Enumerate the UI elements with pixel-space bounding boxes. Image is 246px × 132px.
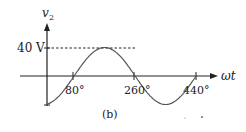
y-axis-label: v <box>42 6 49 20</box>
tick-label-260: 260° <box>124 84 151 97</box>
waveform-diagram: v 2 40 V ωt 80° 260° 440° (b) <box>0 0 246 132</box>
x-axis-label: ωt <box>221 69 236 83</box>
tick-label-440: 440° <box>183 84 210 97</box>
speck <box>184 117 185 118</box>
x-axis-arrow-icon <box>210 73 218 79</box>
tick-label-80: 80° <box>65 84 85 97</box>
y-axis-subscript: 2 <box>49 13 54 22</box>
figure-caption: (b) <box>102 108 118 121</box>
peak-label: 40 V <box>17 41 45 55</box>
speck <box>201 116 203 118</box>
y-axis-arrow-icon <box>44 23 50 31</box>
